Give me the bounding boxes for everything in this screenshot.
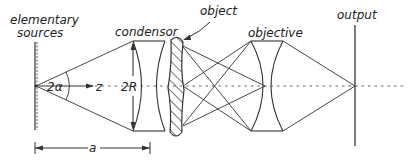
axis-label: z [95, 80, 103, 94]
angle-label: 2α [47, 80, 63, 94]
objective-label: objective [248, 26, 303, 40]
z-arrowhead [86, 84, 94, 89]
condensor-label: condensor [115, 25, 179, 39]
output-label: output [337, 8, 378, 22]
sources-label-line2: sources [17, 26, 63, 40]
optical-system-diagram: 2α z 2R [0, 0, 413, 162]
object-pointer-arrow [183, 22, 210, 40]
sources-label-line1: elementary [10, 13, 80, 27]
object-label: object [200, 4, 238, 18]
aperture-label: 2R [121, 80, 137, 94]
distance-label: a [89, 141, 96, 155]
